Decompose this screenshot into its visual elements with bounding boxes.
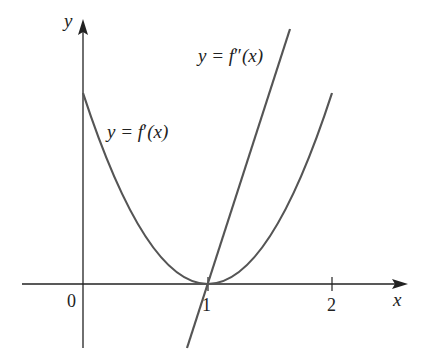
plot-canvas: y x 0 1 2 y = f′(x) y = f″(x) [0, 0, 427, 364]
f-prime-label: y = f′(x) [105, 121, 168, 143]
tick-label-0: 0 [67, 291, 76, 311]
f-prime-label-lhs: y = [105, 121, 138, 142]
tick-label-1: 1 [202, 295, 211, 315]
x-axis-label: x [392, 289, 402, 310]
y-axis-label: y [62, 10, 73, 31]
f-double-prime-label-prime: ″ [234, 45, 242, 66]
f-double-prime-label: y = f″(x) [196, 45, 263, 67]
tick-label-2: 2 [327, 295, 336, 315]
f-double-prime-label-lhs: y = [196, 45, 229, 66]
f-double-prime-label-arg: (x) [242, 45, 263, 67]
f-prime-label-arg: (x) [147, 121, 168, 143]
figure: y x 0 1 2 y = f′(x) y = f″(x) [0, 0, 427, 364]
